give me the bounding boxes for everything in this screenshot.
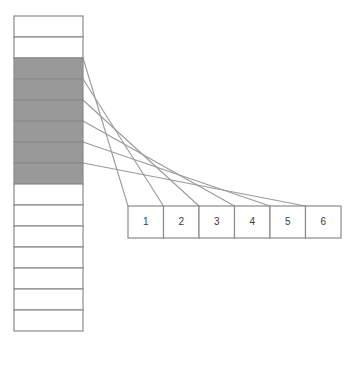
connector-6 (83, 163, 306, 206)
column-cell[interactable] (14, 247, 83, 268)
column-cell[interactable] (14, 16, 83, 37)
row-box[interactable]: 2 (164, 206, 200, 238)
column-cell-highlighted[interactable] (14, 142, 83, 163)
column-cell[interactable] (14, 310, 83, 331)
row-box[interactable]: 6 (306, 206, 342, 238)
column-cell-highlighted[interactable] (14, 100, 83, 121)
row-box[interactable]: 3 (199, 206, 235, 238)
connector-group (83, 58, 306, 206)
column-cell-highlighted[interactable] (14, 163, 83, 184)
connector-2 (83, 79, 164, 206)
horizontal-numbered-row: 123456 (128, 206, 341, 238)
row-box-label: 4 (249, 216, 255, 227)
column-cell[interactable] (14, 226, 83, 247)
column-cell[interactable] (14, 184, 83, 205)
diagram-canvas: 123456 (0, 0, 359, 365)
column-cell[interactable] (14, 205, 83, 226)
row-box-label: 6 (320, 216, 326, 227)
connector-1 (83, 58, 128, 206)
row-box[interactable]: 4 (235, 206, 271, 238)
row-box[interactable]: 5 (270, 206, 306, 238)
column-cell[interactable] (14, 268, 83, 289)
row-box-label: 2 (178, 216, 184, 227)
column-cell-highlighted[interactable] (14, 58, 83, 79)
connector-4 (83, 121, 235, 206)
column-cell[interactable] (14, 289, 83, 310)
row-box-label: 5 (285, 216, 291, 227)
row-box-label: 1 (143, 216, 149, 227)
column-cell-highlighted[interactable] (14, 121, 83, 142)
row-box[interactable]: 1 (128, 206, 164, 238)
connector-5 (83, 142, 270, 206)
diagram-svg: 123456 (0, 0, 359, 365)
column-cell[interactable] (14, 37, 83, 58)
vertical-cell-column (14, 16, 83, 331)
row-box-label: 3 (214, 216, 220, 227)
column-cell-highlighted[interactable] (14, 79, 83, 100)
